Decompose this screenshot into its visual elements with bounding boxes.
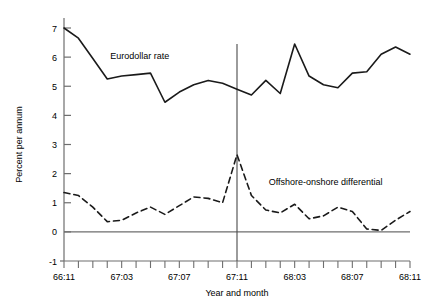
y-tick-label: 5 [52,82,57,92]
y-tick-label: 4 [52,111,57,121]
y-tick-label: 0 [52,227,57,237]
x-tick-label: 66:11 [53,272,75,282]
y-tick-label: 6 [52,53,57,63]
x-tick-label: 67:03 [110,272,133,282]
series-annotation-offshore-onshore-differential: Offshore-onshore differential [269,177,383,187]
y-tick-label: -1 [49,257,57,267]
chart-container: -10123456766:1167:0367:0767:1168:0368:07… [0,0,442,306]
y-tick-label: 2 [52,169,57,179]
series-annotation-eurodollar-rate: Eurodollar rate [110,51,169,61]
x-tick-label: 67:11 [226,272,248,282]
y-axis-title: Percent per annum [14,106,24,183]
y-tick-label: 1 [52,198,57,208]
y-tick-label: 7 [52,24,57,34]
x-tick-label: 68:11 [399,272,421,282]
y-tick-label: 3 [52,140,57,150]
x-tick-label: 68:07 [341,272,364,282]
x-axis-title: Year and month [205,288,268,298]
axes-layer: -10123456766:1167:0367:0767:1168:0368:07… [49,18,421,282]
x-tick-label: 67:07 [168,272,191,282]
chart-canvas: -10123456766:1167:0367:0767:1168:0368:07… [0,0,442,306]
x-tick-label: 68:03 [283,272,306,282]
